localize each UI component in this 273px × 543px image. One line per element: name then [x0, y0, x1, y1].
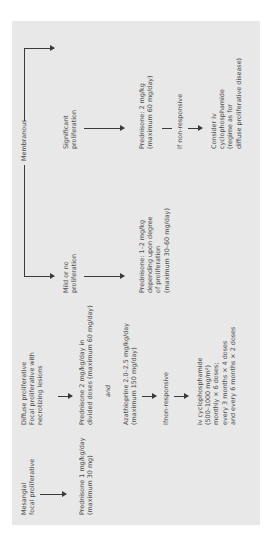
membranous-header: Membranous — [20, 119, 28, 161]
cyclophosphamide-line: (500–1000 mg/m²) — [204, 327, 212, 425]
arrow-down-icon — [84, 128, 124, 129]
diffuse-azathioprine-line: Azathioprine 2.0–2.5 mg/kg/day — [122, 323, 130, 425]
mesangial-treatment-line: (maximum 30 mg) — [86, 438, 94, 516]
diffuse-header-line: Diffuse proliferative — [20, 352, 28, 425]
mild-treatment: Prednisone: 1–2 mg/kg depending upon deg… — [138, 208, 171, 293]
diffuse-prednisone-line: Prednisone 2 mg/kg/day in — [78, 305, 86, 425]
arrow-down-icon — [84, 276, 124, 277]
next-step-line: cyclophosphamide — [218, 58, 226, 149]
mesangial-header-line: Mesangial — [20, 459, 28, 515]
significant-next-step: Consider iv cyclophosphamide (regime as … — [210, 58, 243, 149]
significant-treatment: Prednisone: 2 mg/kg (maximum 60 mg/day) — [138, 75, 154, 149]
mild-proliferation-label: Mild or no proliferation — [62, 254, 78, 293]
diffuse-header: Diffuse proliferative Focal proliferativ… — [20, 352, 45, 425]
arrow-down-icon — [188, 128, 202, 129]
cyclophosphamide-line: and every 6 months × 2 doses — [229, 327, 237, 425]
arrow-down-icon — [174, 396, 188, 397]
diffuse-azathioprine-line: (maximum 150 mg/day) — [130, 323, 138, 425]
mesangial-treatment-line: Prednisone 1 mg/kg/day — [78, 438, 86, 516]
arrow-down-icon — [24, 48, 54, 49]
diffuse-header-line: necrotizing lesions — [36, 352, 44, 425]
diffuse-azathioprine: Azathioprine 2.0–2.5 mg/kg/day (maximum … — [122, 323, 138, 425]
diffuse-prednisone-line: divided doses (maximum 60 mg/day) — [86, 305, 94, 425]
next-step-line: (regime as for — [226, 58, 234, 149]
branch-line — [24, 165, 25, 277]
mild-treatment-line: of proliferation — [154, 208, 162, 293]
mild-treatment-line: (maximum 30–60 mg/day) — [163, 208, 171, 293]
diffuse-non-responsive: Ifnon-responsive — [162, 372, 170, 425]
significant-non-responsive: If non-responsive — [176, 94, 184, 149]
branch-line — [24, 49, 25, 121]
diffuse-prednisone: Prednisone 2 mg/kg/day in divided doses … — [78, 305, 94, 425]
significant-treatment-line: (maximum 60 mg/day) — [146, 75, 154, 149]
arrow-down-icon — [58, 396, 72, 397]
cyclophosphamide-line: every 3 months × 4 doses — [221, 327, 229, 425]
and-label: and — [104, 385, 112, 397]
arrow-down-icon — [40, 494, 66, 495]
mild-label-line: proliferation — [70, 254, 78, 293]
diffuse-cyclophosphamide: iv cyclophosphamide (500–1000 mg/m²) mon… — [196, 327, 237, 425]
mild-treatment-line: depending upon degree — [146, 208, 154, 293]
mild-treatment-line: Prednisone: 1–2 mg/kg — [138, 208, 146, 293]
arrow-down-icon — [24, 276, 54, 277]
cyclophosphamide-line: iv cyclophosphamide — [196, 327, 204, 425]
mesangial-header-line: focal proliferative — [28, 459, 36, 515]
significant-proliferation-label: Significant proliferation — [62, 110, 78, 149]
cyclophosphamide-line: monthly × 6 doses; — [212, 327, 220, 425]
connector-line — [162, 128, 172, 129]
next-step-line: Consider iv — [210, 58, 218, 149]
mild-label-line: Mild or no — [62, 254, 70, 293]
arrow-down-icon — [142, 396, 156, 397]
significant-treatment-line: Prednisone: 2 mg/kg — [138, 75, 146, 149]
significant-label-line: Significant — [62, 110, 70, 149]
next-step-line: diffuse proliferative disease) — [235, 58, 243, 149]
flowchart-panel: Mesangial focal proliferative Prednisone… — [12, 21, 260, 525]
mesangial-header: Mesangial focal proliferative — [20, 459, 36, 515]
significant-label-line: proliferation — [70, 110, 78, 149]
mesangial-treatment: Prednisone 1 mg/kg/day (maximum 30 mg) — [78, 438, 94, 516]
diffuse-header-line: Focal proliferative with — [28, 352, 36, 425]
